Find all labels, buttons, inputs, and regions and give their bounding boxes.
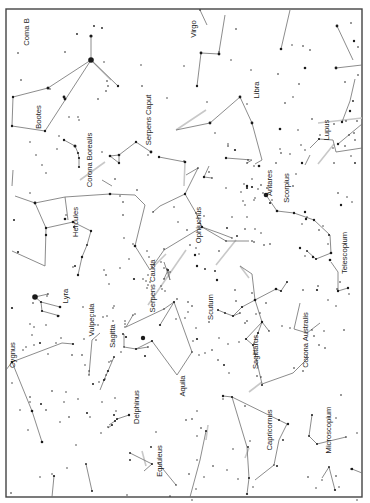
star-icon: [231, 396, 233, 398]
star-icon: [275, 162, 277, 164]
star-icon: [119, 267, 120, 268]
star-icon: [58, 135, 59, 136]
star-icon: [78, 119, 79, 120]
star-icon: [39, 342, 41, 344]
star-icon: [19, 409, 20, 410]
star-icon: [196, 265, 198, 267]
star-icon: [293, 212, 295, 214]
star-icon: [244, 228, 246, 230]
star-icon: [196, 85, 198, 87]
star-icon: [114, 420, 116, 422]
star-icon: [337, 143, 339, 145]
star-icon: [76, 33, 78, 35]
constellation-label-lupus: Lupus: [322, 119, 331, 140]
star-icon: [163, 267, 164, 268]
star-icon: [109, 193, 112, 196]
star-icon: [53, 475, 55, 477]
star-icon: [49, 88, 50, 89]
star-icon: [311, 414, 313, 416]
star-icon: [275, 288, 278, 291]
star-icon: [236, 235, 238, 237]
constellation-label-hercules: Hercules: [71, 207, 80, 237]
star-icon: [141, 336, 145, 340]
star-icon: [222, 398, 223, 399]
star-icon: [356, 120, 358, 122]
star-icon: [224, 312, 226, 314]
star-icon: [251, 122, 254, 125]
star-icon: [251, 240, 253, 242]
star-icon: [35, 154, 36, 155]
constellation-label-sagitta: Sagitta: [108, 323, 117, 347]
star-icon: [269, 202, 271, 204]
star-icon: [101, 151, 102, 152]
star-icon: [123, 346, 125, 348]
star-icon: [244, 405, 246, 407]
constellation-label-telescopium: Telescopium: [340, 232, 349, 274]
star-icon: [226, 227, 228, 229]
star-icon: [279, 148, 280, 149]
star-icon: [222, 395, 224, 397]
star-icon: [150, 446, 152, 448]
star-icon: [341, 121, 343, 123]
star-icon: [356, 499, 357, 500]
star-icon: [34, 202, 37, 205]
star-icon: [166, 97, 167, 98]
star-icon: [354, 139, 356, 141]
star-icon: [317, 285, 319, 287]
star-icon: [239, 312, 241, 314]
star-icon: [262, 192, 263, 193]
star-icon: [238, 341, 239, 342]
star-icon: [183, 160, 184, 161]
star-icon: [116, 418, 118, 420]
star-icon: [318, 344, 320, 346]
star-icon: [47, 353, 48, 354]
star-icon: [234, 289, 236, 291]
star-icon: [84, 364, 85, 365]
star-icon: [295, 173, 296, 174]
constellation-label-vulpecula: Vulpecula: [87, 303, 96, 337]
star-icon: [353, 132, 355, 134]
star-icon: [315, 258, 317, 260]
star-icon: [158, 156, 160, 158]
star-icon: [147, 154, 148, 155]
star-icon: [45, 324, 46, 325]
star-icon: [327, 299, 328, 300]
star-icon: [217, 309, 219, 311]
star-icon: [259, 312, 260, 313]
star-icon: [216, 279, 218, 281]
star-icon: [319, 134, 320, 135]
star-icon: [316, 443, 318, 445]
star-icon: [218, 51, 219, 52]
star-icon: [141, 85, 143, 87]
star-icon: [324, 347, 326, 349]
star-icon: [293, 367, 295, 369]
star-icon: [209, 122, 212, 125]
star-icon: [315, 487, 316, 488]
star-icon: [280, 290, 282, 292]
star-icon: [191, 499, 192, 500]
star-icon: [111, 424, 113, 426]
star-icon: [251, 178, 252, 179]
star-icon: [218, 337, 219, 338]
star-icon: [185, 419, 187, 421]
star-icon: [287, 423, 289, 425]
star-icon: [321, 479, 322, 480]
star-icon: [169, 495, 170, 496]
star-icon: [128, 258, 129, 259]
star-icon: [29, 401, 30, 402]
star-icon: [304, 211, 306, 213]
star-icon: [108, 361, 109, 362]
star-icon: [333, 123, 335, 125]
star-icon: [140, 64, 141, 65]
star-icon: [51, 473, 52, 474]
star-icon: [348, 134, 350, 136]
star-icon: [115, 410, 116, 411]
star-icon: [246, 320, 248, 322]
star-icon: [151, 463, 153, 465]
star-icon: [214, 132, 215, 133]
star-icon: [211, 177, 213, 179]
star-icon: [78, 157, 80, 159]
star-icon: [196, 338, 198, 340]
star-icon: [135, 348, 137, 350]
star-icon: [75, 444, 76, 445]
